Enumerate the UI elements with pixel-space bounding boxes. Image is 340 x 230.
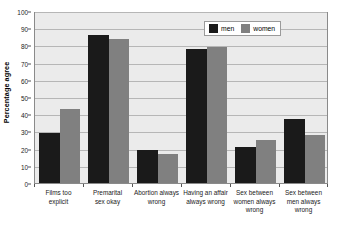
- bar-group: [39, 13, 80, 183]
- bar-group: [137, 13, 178, 183]
- x-tick-mark: [83, 184, 84, 187]
- y-axis-title: Percentage agree: [0, 0, 14, 185]
- y-tick-label: 70: [21, 60, 28, 67]
- bar-women: [207, 47, 228, 183]
- y-tick-label: 50: [21, 95, 28, 102]
- x-tick-mark: [230, 184, 231, 187]
- y-tick-label: 40: [21, 112, 28, 119]
- y-tick-mark: [28, 149, 31, 150]
- bar-men: [235, 147, 256, 183]
- legend-label-women: women: [253, 25, 275, 32]
- y-tick-label: 60: [21, 77, 28, 84]
- x-tick-mark: [181, 184, 182, 187]
- y-tick-mark: [28, 115, 31, 116]
- y-tick-mark: [28, 132, 31, 133]
- y-tick-mark: [28, 29, 31, 30]
- x-axis-label: Having an affairalways wrong: [181, 189, 230, 206]
- legend: men women: [204, 21, 281, 36]
- y-tick-label: 80: [21, 43, 28, 50]
- y-tick-mark: [28, 80, 31, 81]
- y-axis-title-text: Percentage agree: [3, 62, 12, 124]
- x-tick-mark: [132, 184, 133, 187]
- y-tick-label: 100: [17, 9, 28, 16]
- bar-women: [109, 39, 130, 183]
- bar-men: [137, 150, 158, 183]
- legend-item-men: men: [209, 24, 234, 33]
- bar-group: [235, 13, 276, 183]
- y-tick-mark: [28, 184, 31, 185]
- bar-men: [39, 133, 60, 183]
- x-tick-mark: [327, 184, 328, 187]
- bar-chart: Percentage agree 0102030405060708090100 …: [0, 0, 340, 230]
- legend-swatch-women-icon: [241, 24, 250, 33]
- y-tick-label: 30: [21, 129, 28, 136]
- bar-men: [284, 119, 305, 183]
- bar-group: [186, 13, 227, 183]
- y-tick-mark: [28, 98, 31, 99]
- y-tick-mark: [28, 63, 31, 64]
- bars-layer: [35, 13, 327, 183]
- x-axis-labels: Films tooexplicitPremaritalsex okayAbort…: [34, 189, 328, 229]
- x-axis-label: Premaritalsex okay: [83, 189, 132, 206]
- bar-men: [186, 49, 207, 183]
- legend-swatch-men-icon: [209, 24, 218, 33]
- x-tick-mark: [279, 184, 280, 187]
- bar-men: [88, 35, 109, 183]
- y-tick-label: 90: [21, 26, 28, 33]
- bar-women: [158, 154, 179, 183]
- x-axis-ticks: [34, 184, 328, 188]
- bar-women: [60, 109, 81, 183]
- y-tick-label: 10: [21, 163, 28, 170]
- x-axis-label: Sex betweenwomen alwayswrong: [230, 189, 279, 215]
- y-tick-label: 20: [21, 146, 28, 153]
- y-tick-mark: [28, 166, 31, 167]
- x-axis-label: Films tooexplicit: [34, 189, 83, 206]
- x-tick-mark: [34, 184, 35, 187]
- x-axis-label: Sex betweenmen alwayswrong: [279, 189, 328, 215]
- y-axis-ticks: 0102030405060708090100: [14, 12, 31, 184]
- legend-item-women: women: [241, 24, 275, 33]
- bar-group: [88, 13, 129, 183]
- x-axis-label: Abortion alwayswrong: [132, 189, 181, 206]
- bar-women: [305, 135, 326, 183]
- y-tick-mark: [28, 46, 31, 47]
- plot-area: [34, 12, 328, 184]
- y-tick-mark: [28, 12, 31, 13]
- bar-women: [256, 140, 277, 183]
- bar-group: [284, 13, 325, 183]
- legend-label-men: men: [221, 25, 234, 32]
